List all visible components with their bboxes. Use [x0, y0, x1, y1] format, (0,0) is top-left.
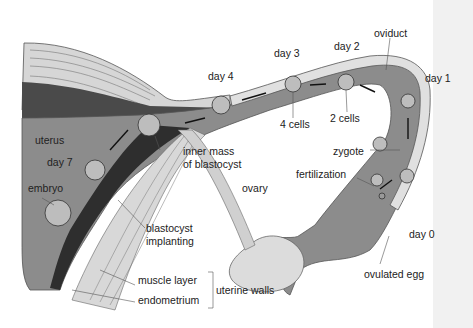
- label-oviduct: oviduct: [374, 27, 407, 39]
- fertilized-egg-icon: [373, 137, 387, 151]
- day7-blastocyst-icon: [85, 160, 105, 180]
- day1-cell-icon: [401, 94, 415, 108]
- diagram-canvas: oviduct day 2 day 3 day 1 day 4 2 cells …: [0, 0, 473, 328]
- label-inner-mass-2: of blastocyst: [183, 158, 241, 170]
- label-blastocyst-2: implanting: [146, 235, 194, 247]
- zygote-icon: [400, 169, 414, 183]
- label-endometrium: endometrium: [138, 294, 199, 306]
- label-ovary: ovary: [242, 182, 268, 194]
- label-4-cells: 4 cells: [280, 118, 310, 130]
- morula-icon: [212, 96, 230, 114]
- label-day3: day 3: [274, 47, 300, 59]
- label-day2: day 2: [334, 40, 360, 52]
- label-ovulated-egg: ovulated egg: [364, 268, 424, 280]
- label-2-cells: 2 cells: [330, 112, 360, 124]
- label-zygote: zygote: [333, 145, 364, 157]
- two-cell-icon: [338, 74, 354, 90]
- label-day7: day 7: [47, 156, 73, 168]
- label-day0: day 0: [409, 228, 435, 240]
- label-fertilization: fertilization: [296, 168, 346, 180]
- label-inner-mass-1: inner mass: [183, 145, 234, 157]
- label-uterus: uterus: [35, 134, 64, 146]
- label-embryo: embryo: [28, 182, 63, 194]
- label-muscle-layer: muscle layer: [138, 274, 197, 286]
- four-cell-icon: [285, 76, 301, 92]
- label-blastocyst-1: blastocyst: [146, 222, 193, 234]
- blastocyst-icon: [138, 114, 160, 136]
- label-uterine-walls: uterine walls: [216, 284, 274, 296]
- label-day1: day 1: [425, 72, 451, 84]
- label-day4: day 4: [208, 70, 234, 82]
- ovulated-egg-icon: [371, 174, 383, 186]
- embryo-implanting-icon: [45, 200, 71, 226]
